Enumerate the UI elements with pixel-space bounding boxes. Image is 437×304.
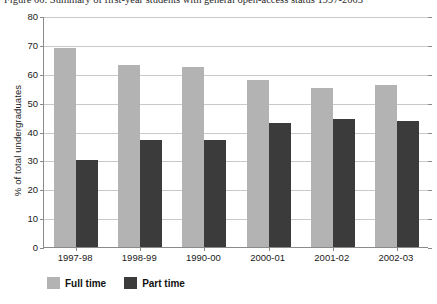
legend-swatch-full-time — [47, 277, 60, 289]
y-tick-label-30: 30 — [4, 155, 38, 166]
y-tick-right-10 — [428, 219, 432, 220]
legend-label-part-time: Part time — [142, 278, 185, 289]
y-tick-label-80: 80 — [4, 11, 38, 22]
bar-full-time-1990-00 — [182, 67, 204, 247]
y-tick-label-60: 60 — [4, 69, 38, 80]
gridline-50 — [44, 104, 428, 105]
bar-part-time-2001-02 — [333, 119, 355, 247]
y-tick-right-0 — [428, 248, 432, 249]
bar-full-time-1998-99 — [118, 65, 140, 247]
x-tick-label-1990-00: 1990-00 — [168, 252, 238, 263]
gridline-70 — [44, 46, 428, 47]
chart-legend: Full timePart time — [47, 277, 194, 289]
bar-part-time-1998-99 — [140, 140, 162, 247]
y-tick-80 — [40, 17, 44, 18]
legend-item-full-time: Full time — [47, 277, 106, 289]
bar-chart-figure: % of total undergraduates 01020304050607… — [0, 0, 437, 304]
gridline-10 — [44, 219, 428, 220]
y-tick-60 — [40, 75, 44, 76]
y-tick-20 — [40, 190, 44, 191]
y-axis-title: % of total undergraduates — [12, 61, 23, 221]
bar-full-time-1997-98 — [54, 48, 76, 247]
x-tick-1998-99 — [140, 247, 141, 251]
gridline-30 — [44, 161, 428, 162]
x-tick-2002-03 — [397, 247, 398, 251]
bar-part-time-1997-98 — [76, 160, 98, 247]
x-tick-label-2002-03: 2002-03 — [361, 252, 431, 263]
x-tick-label-2001-02: 2001-02 — [297, 252, 367, 263]
y-tick-right-60 — [428, 75, 432, 76]
x-tick-label-2000-01: 2000-01 — [233, 252, 303, 263]
y-tick-right-50 — [428, 104, 432, 105]
y-tick-70 — [40, 46, 44, 47]
y-tick-50 — [40, 104, 44, 105]
bar-part-time-1990-00 — [204, 140, 226, 247]
y-tick-label-0: 0 — [4, 242, 38, 253]
y-tick-right-40 — [428, 133, 432, 134]
legend-item-part-time: Part time — [124, 277, 185, 289]
y-tick-40 — [40, 133, 44, 134]
y-tick-label-40: 40 — [4, 127, 38, 138]
gridline-20 — [44, 190, 428, 191]
y-tick-label-50: 50 — [4, 98, 38, 109]
y-tick-right-80 — [428, 17, 432, 18]
y-tick-label-20: 20 — [4, 184, 38, 195]
x-tick-label-1997-98: 1997-98 — [40, 252, 110, 263]
y-tick-right-70 — [428, 46, 432, 47]
gridline-40 — [44, 133, 428, 134]
y-tick-10 — [40, 219, 44, 220]
bar-part-time-2000-01 — [269, 123, 291, 247]
x-tick-2001-02 — [333, 247, 334, 251]
legend-label-full-time: Full time — [65, 278, 106, 289]
x-tick-1990-00 — [204, 247, 205, 251]
y-tick-right-30 — [428, 161, 432, 162]
legend-swatch-part-time — [124, 277, 137, 289]
x-tick-label-1998-99: 1998-99 — [104, 252, 174, 263]
gridline-60 — [44, 75, 428, 76]
y-tick-label-10: 10 — [4, 213, 38, 224]
y-tick-label-70: 70 — [4, 40, 38, 51]
bar-full-time-2002-03 — [375, 85, 397, 247]
y-tick-0 — [40, 248, 44, 249]
plot-area — [43, 17, 428, 248]
bar-full-time-2000-01 — [247, 80, 269, 247]
x-tick-1997-98 — [76, 247, 77, 251]
y-tick-30 — [40, 161, 44, 162]
y-tick-right-20 — [428, 190, 432, 191]
bar-full-time-2001-02 — [311, 88, 333, 247]
x-tick-2000-01 — [269, 247, 270, 251]
bar-part-time-2002-03 — [397, 121, 419, 247]
gridline-80 — [44, 17, 428, 18]
